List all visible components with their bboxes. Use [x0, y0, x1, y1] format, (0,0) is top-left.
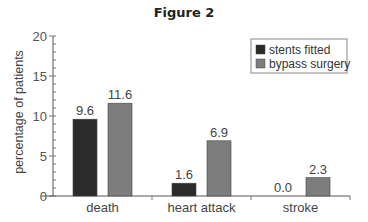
bar-chart: 05101520percentage of patientsdeath9.611… [0, 0, 368, 222]
x-category-label: stroke [283, 200, 318, 215]
value-label: 2.3 [309, 162, 327, 177]
bar-stents-fitted-heart-attack [172, 183, 196, 196]
y-tick-label: 5 [40, 149, 47, 164]
bar-stents-fitted-death [73, 119, 97, 196]
legend-label-stents-fitted: stents fitted [269, 43, 330, 57]
y-tick-label: 15 [33, 69, 47, 84]
value-label: 11.6 [108, 87, 132, 102]
bar-bypass-surgery-heart-attack [207, 141, 231, 196]
legend-swatch-stents-fitted [256, 45, 265, 54]
y-tick-label: 20 [33, 29, 47, 44]
value-label: 6.9 [210, 125, 228, 140]
legend-label-bypass-surgery: bypass surgery [269, 57, 350, 71]
x-category-label: death [86, 200, 119, 215]
bar-bypass-surgery-stroke [306, 178, 330, 196]
value-label: 0.0 [274, 180, 292, 195]
x-category-label: heart attack [168, 200, 236, 215]
value-label: 9.6 [76, 103, 94, 118]
y-axis-label: percentage of patients [12, 50, 26, 174]
value-label: 1.6 [175, 167, 193, 182]
bar-bypass-surgery-death [108, 103, 132, 196]
legend-swatch-bypass-surgery [256, 59, 265, 68]
y-tick-label: 10 [33, 109, 47, 124]
